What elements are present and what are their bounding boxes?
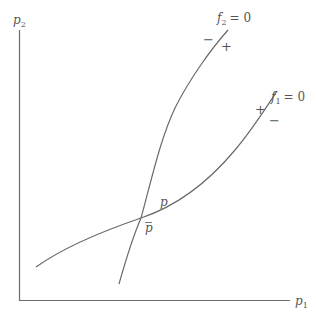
curve-f1-sign-minus: −	[269, 113, 280, 128]
curve-f2	[119, 30, 228, 284]
diagram-canvas: p2 p1 f2= 0 − + f1= 0 + − p p	[0, 0, 316, 316]
point-p-label: p	[160, 195, 168, 209]
curve-f2-label: f2= 0	[216, 11, 251, 27]
svg-text:p: p	[145, 221, 153, 235]
curve-f1-label: f1= 0	[270, 90, 305, 106]
curve-f2-sign-minus: −	[203, 32, 214, 47]
curve-f1	[36, 91, 277, 267]
curve-f1-sign-plus: +	[255, 102, 266, 117]
curve-f2-sign-plus: +	[221, 39, 232, 54]
x-axis-label: p1	[295, 294, 308, 310]
point-p-bar-label: p	[145, 221, 153, 235]
y-axis-label: p2	[13, 13, 26, 29]
